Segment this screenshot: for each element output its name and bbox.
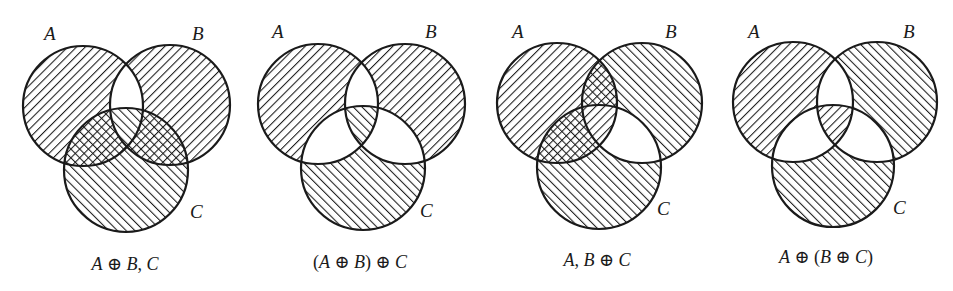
set-label-a: A	[746, 21, 760, 42]
set-label-b: B	[903, 21, 915, 42]
set-label-b: B	[425, 21, 437, 42]
set-label-b: B	[192, 23, 204, 44]
set-label-c: C	[190, 201, 203, 222]
diagram-caption: A ⊕ B, C	[90, 254, 159, 274]
set-label-c: C	[893, 197, 906, 218]
venn-diagrams-canvas: ABCA ⊕ B, C ABC(A ⊕ B) ⊕ C ABCA, B ⊕ C A…	[0, 0, 953, 291]
diagram-caption: A, B ⊕ C	[562, 250, 631, 270]
set-label-a: A	[510, 21, 524, 42]
set-label-b: B	[665, 21, 677, 42]
set-label-a: A	[42, 23, 56, 44]
diagram-caption: A ⊕ (B ⊕ C)	[778, 247, 873, 268]
diagram-caption: (A ⊕ B) ⊕ C	[313, 252, 408, 273]
set-label-c: C	[657, 198, 670, 219]
set-label-a: A	[270, 21, 284, 42]
venn-diagram-figure: ABCA ⊕ B, C ABC(A ⊕ B) ⊕ C ABCA, B ⊕ C A…	[0, 0, 953, 291]
set-label-c: C	[420, 200, 433, 221]
